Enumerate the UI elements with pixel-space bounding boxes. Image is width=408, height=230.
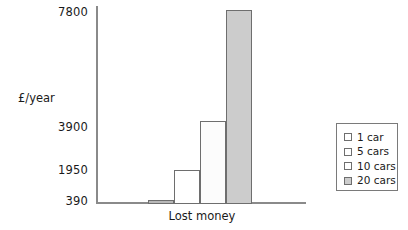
- legend-label: 1 car: [357, 132, 384, 143]
- bar-1-car: [148, 200, 174, 204]
- x-axis-title: Lost money: [96, 209, 308, 223]
- legend-item-1-car: 1 car: [344, 130, 397, 144]
- legend-swatch-icon: [344, 148, 352, 156]
- legend: 1 car 5 cars 10 cars 20 cars: [336, 123, 398, 191]
- legend-swatch-icon: [344, 133, 352, 141]
- legend-label: 20 cars: [357, 175, 396, 186]
- y-axis-line: [96, 6, 98, 204]
- y-tick-3900: 3900: [0, 120, 88, 133]
- legend-item-5-cars: 5 cars: [344, 145, 397, 159]
- legend-swatch-icon: [344, 162, 352, 170]
- legend-label: 5 cars: [357, 146, 389, 157]
- y-tick-390: 390: [0, 194, 88, 207]
- y-tick-1950: 1950: [0, 163, 88, 176]
- bar-20-cars: [226, 10, 252, 204]
- legend-item-10-cars: 10 cars: [344, 159, 397, 173]
- y-tick-label: 390: [0, 194, 88, 208]
- bar-10-cars: [200, 121, 226, 204]
- bar-chart-figure: 7800 3900 1950 390 £/year Lost money 1 c…: [0, 0, 408, 230]
- bar-5-cars: [174, 170, 200, 204]
- y-tick-label: 1950: [0, 163, 88, 177]
- legend-item-20-cars: 20 cars: [344, 174, 397, 188]
- legend-label: 10 cars: [357, 161, 396, 172]
- y-tick-label: 7800: [0, 5, 88, 19]
- legend-swatch-icon: [344, 177, 352, 185]
- y-tick-label: 3900: [0, 120, 88, 134]
- y-tick-7800: 7800: [0, 5, 88, 18]
- y-axis-title: £/year: [18, 91, 55, 105]
